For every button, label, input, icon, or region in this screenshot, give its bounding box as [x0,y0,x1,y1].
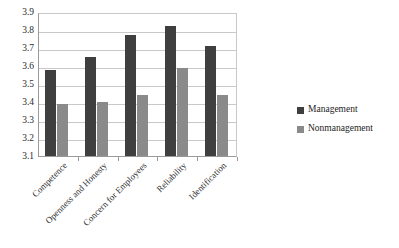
bar-management [85,57,96,156]
bar-management [45,70,56,156]
bar-nonmanagement [57,104,68,156]
gridline [39,32,236,33]
y-axis-tick-label: 3.5 [2,80,34,90]
x-axis-tick [78,157,79,161]
bar-nonmanagement [137,95,148,156]
y-axis-tick-label: 3.7 [2,44,34,54]
x-axis: CompetenceOpenness and HonestyConcern fo… [0,155,399,248]
legend-label-management: Management [308,105,358,115]
bar-management [165,26,176,156]
bar-management [205,46,216,156]
legend-swatch-management [297,107,304,114]
y-axis-tick-label: 3.6 [2,62,34,72]
y-axis-tick-label: 3.4 [2,98,34,108]
chart-legend: Management Nonmanagement [297,104,397,142]
y-axis-tick-label: 3.2 [2,134,34,144]
bar-nonmanagement [97,102,108,156]
x-axis-tick [157,157,158,161]
legend-item-nonmanagement: Nonmanagement [297,123,397,135]
plot-area [38,13,237,157]
bar-chart: 3.93.83.73.63.53.43.33.23.1 CompetenceOp… [0,0,399,248]
y-axis-tick-label: 3.8 [2,26,34,36]
bar-management [125,35,136,156]
x-axis-tick [197,157,198,161]
legend-label-nonmanagement: Nonmanagement [308,124,373,134]
bar-nonmanagement [177,68,188,156]
x-axis-category-label: Openness and Honesty [30,161,109,240]
bar-nonmanagement [217,95,228,156]
legend-item-management: Management [297,104,397,116]
x-axis-tick [118,157,119,161]
y-axis-tick-label: 3.9 [2,8,34,18]
legend-swatch-nonmanagement [297,126,304,133]
x-axis-tick [237,157,238,161]
y-axis-tick-label: 3.3 [2,116,34,126]
